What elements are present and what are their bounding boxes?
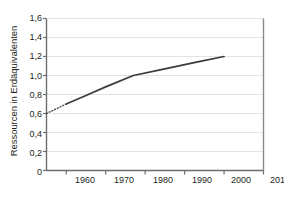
gridlines <box>47 19 264 152</box>
plot-area <box>0 0 284 198</box>
line-chart: Ressourcen in Erdäquivalenten 1,6 1,4 1,… <box>0 0 284 198</box>
series-line-solid <box>66 57 224 105</box>
data-series <box>47 57 225 114</box>
series-line-dotted <box>47 104 67 114</box>
